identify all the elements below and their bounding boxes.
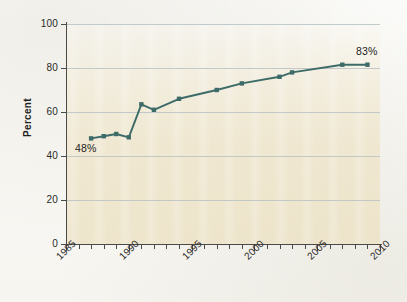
data-point-2007 xyxy=(340,63,344,67)
data-point-1987 xyxy=(89,136,93,140)
series-plot xyxy=(0,0,407,302)
annotation-start-value: 48% xyxy=(75,142,97,154)
series-line-0 xyxy=(91,65,367,139)
data-point-2003 xyxy=(290,70,294,74)
chart-figure: 020406080100 198519901995200020052010 Pe… xyxy=(0,0,407,302)
data-point-1988 xyxy=(101,134,105,138)
data-point-2009 xyxy=(365,63,369,67)
data-point-1991 xyxy=(139,102,143,106)
data-point-1989 xyxy=(114,132,118,136)
data-point-1992 xyxy=(152,108,156,112)
data-point-2002 xyxy=(277,75,281,79)
data-point-1999 xyxy=(240,81,244,85)
data-point-1994 xyxy=(177,97,181,101)
data-point-1990 xyxy=(127,135,131,139)
annotation-end-value: 83% xyxy=(356,45,378,57)
data-point-1997 xyxy=(215,88,219,92)
